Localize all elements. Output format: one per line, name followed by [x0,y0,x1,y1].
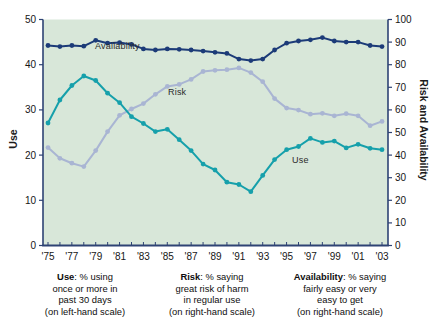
series-marker-risk [93,148,98,153]
series-marker-availability [237,57,242,62]
series-marker-use [165,127,170,132]
series-marker-use [58,98,63,103]
right-axis-tick-label: 90 [395,37,407,48]
series-marker-use [308,136,313,141]
series-marker-availability [272,48,277,53]
series-marker-risk [201,69,206,74]
series-marker-use [177,137,182,142]
left-axis-tick-label: 0 [30,240,36,251]
series-marker-risk [129,107,134,112]
series-marker-availability [153,48,158,53]
line-chart: 010203040500102030405060708090100'75'77'… [0,0,434,268]
x-axis-tick-label: '89 [208,251,221,262]
series-marker-use [93,78,98,83]
x-axis-tick-label: '77 [65,251,78,262]
series-marker-use [332,139,337,144]
series-marker-use [153,129,158,134]
right-axis-tick-label: 50 [395,127,407,138]
risk-series-label: Risk [168,87,186,97]
series-marker-availability [248,58,253,63]
caption-use-after: : % using [74,271,113,282]
series-marker-availability [320,35,325,40]
left-axis-tick-label: 50 [25,14,37,25]
series-marker-risk [296,108,301,113]
series-marker-use [201,162,206,167]
x-axis-tick-label: '01 [352,251,365,262]
series-marker-availability [189,48,194,53]
x-axis-tick-label: '93 [256,251,269,262]
series-marker-risk [153,92,158,97]
series-marker-use [368,146,373,151]
x-axis-tick-label: '75 [41,251,54,262]
series-marker-availability [141,47,146,52]
series-marker-availability [213,50,218,55]
series-marker-risk [213,68,218,73]
series-marker-risk [332,113,337,118]
series-marker-use [320,140,325,145]
x-axis-tick-label: '83 [137,251,150,262]
series-marker-use [248,189,253,194]
series-marker-availability [356,40,361,45]
series-marker-use [141,121,146,126]
right-axis-title: Risk and Availability [418,79,430,180]
series-marker-availability [344,40,349,45]
right-axis-tick-label: 40 [395,150,407,161]
series-marker-availability [165,47,170,52]
left-axis-tick-label: 40 [25,59,37,70]
left-axis-title: Use [7,129,19,148]
series-marker-risk [225,67,230,72]
series-marker-risk [58,156,63,161]
caption-availability-line1: Availability: % saying [265,271,415,283]
series-marker-availability [284,41,289,46]
series-marker-use [46,121,51,126]
series-marker-availability [70,43,75,48]
series-marker-availability [46,43,51,48]
series-marker-use [225,180,230,185]
series-marker-use [284,147,289,152]
availability-series-label: Availability [95,41,140,51]
caption-availability-after: : % saying [343,271,386,282]
x-axis-tick-label: '03 [375,251,388,262]
right-axis-tick-label: 30 [395,172,407,183]
right-axis-tick-label: 0 [395,240,401,251]
series-marker-use [344,146,349,151]
series-marker-risk [141,101,146,106]
series-marker-availability [308,37,313,42]
series-marker-availability [260,57,265,62]
series-marker-risk [380,119,385,124]
series-marker-risk [46,145,51,150]
caption-risk-after: : % saying [200,271,243,282]
series-marker-risk [237,66,242,71]
right-axis-tick-label: 10 [395,217,407,228]
caption-risk-term: Risk [180,271,200,282]
caption-availability-line4: (on right-hand scale) [265,306,415,318]
series-marker-availability [225,51,230,56]
series-marker-risk [320,111,325,116]
series-marker-risk [248,70,253,75]
series-marker-availability [201,49,206,54]
x-axis-tick-label: '95 [280,251,293,262]
series-marker-risk [117,113,122,118]
caption-use-term: Use [57,271,74,282]
x-axis-tick-label: '79 [89,251,102,262]
right-axis-tick-label: 60 [395,104,407,115]
x-axis-tick-label: '81 [113,251,126,262]
use-series-label: Use [292,155,309,165]
series-marker-availability [332,39,337,44]
series-marker-availability [380,44,385,49]
series-marker-availability [177,47,182,52]
series-marker-risk [272,96,277,101]
series-marker-use [260,173,265,178]
x-axis-tick-label: '99 [328,251,341,262]
series-marker-risk [81,164,86,169]
series-marker-risk [344,111,349,116]
series-marker-availability [296,39,301,44]
series-marker-use [117,100,122,105]
series-marker-use [356,142,361,147]
series-marker-risk [260,79,265,84]
x-axis-tick-label: '87 [185,251,198,262]
series-marker-use [213,168,218,173]
series-marker-use [189,148,194,153]
series-marker-availability [81,44,86,49]
series-marker-use [81,74,86,79]
